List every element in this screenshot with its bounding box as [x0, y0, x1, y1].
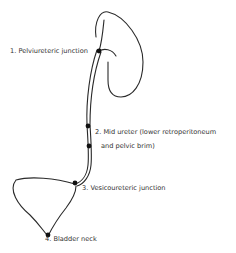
ureter-left-wall: [75, 50, 97, 184]
marker-vesicoureteric-junction: [73, 181, 78, 186]
urinary-tract-diagram: [0, 0, 236, 253]
kidney-hilum: [99, 20, 104, 51]
ureter-right-wall: [77, 52, 101, 186]
label-bladder-neck: 4. Bladder neck: [45, 236, 97, 243]
bladder-outline: [13, 178, 76, 236]
kidney-outline: [96, 12, 143, 97]
renal-pelvis: [99, 49, 116, 56]
label-mid-ureter-line2: and pelvic brim): [101, 143, 155, 150]
label-vesicoureteric-junction: 3. Vesicoureteric junction: [82, 185, 166, 192]
marker-mid-ureter-upper: [86, 124, 91, 129]
marker-mid-ureter-lower: [87, 144, 92, 149]
label-mid-ureter-line1: 2. Mid ureter (lower retroperitoneum: [95, 129, 216, 136]
label-pelviureteric-junction: 1. Pelviureteric junction: [10, 48, 88, 55]
marker-pelviureteric-junction: [97, 49, 102, 54]
